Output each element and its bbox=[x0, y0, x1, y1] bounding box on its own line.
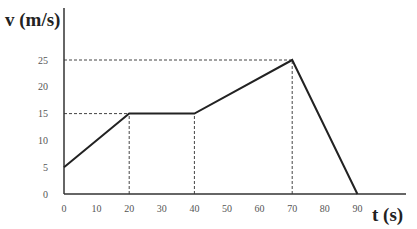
x-tick-label: 60 bbox=[255, 203, 265, 214]
y-axis-label: v (m/s) bbox=[5, 9, 60, 31]
y-tick-label: 20 bbox=[38, 81, 48, 92]
velocity-time-chart: 0510152025 0102030405060708090 v (m/s) t… bbox=[0, 0, 417, 229]
x-tick-label: 80 bbox=[320, 203, 330, 214]
x-tick-label: 20 bbox=[124, 203, 134, 214]
x-tick-labels: 0102030405060708090 bbox=[62, 203, 363, 214]
x-tick-label: 10 bbox=[92, 203, 102, 214]
y-tick-label: 0 bbox=[43, 189, 48, 200]
x-axis-label: t (s) bbox=[372, 204, 403, 226]
y-tick-label: 15 bbox=[38, 108, 48, 119]
x-tick-label: 30 bbox=[157, 203, 167, 214]
x-tick-label: 40 bbox=[189, 203, 199, 214]
x-tick-label: 90 bbox=[352, 203, 362, 214]
reference-lines bbox=[64, 60, 292, 194]
x-tick-label: 70 bbox=[287, 203, 297, 214]
y-tick-label: 5 bbox=[43, 162, 48, 173]
velocity-series-line bbox=[64, 60, 357, 194]
y-tick-label: 25 bbox=[38, 55, 48, 66]
y-tick-labels: 0510152025 bbox=[38, 55, 48, 200]
axes bbox=[64, 8, 406, 194]
y-tick-label: 10 bbox=[38, 135, 48, 146]
x-tick-label: 50 bbox=[222, 203, 232, 214]
x-tick-label: 0 bbox=[62, 203, 67, 214]
